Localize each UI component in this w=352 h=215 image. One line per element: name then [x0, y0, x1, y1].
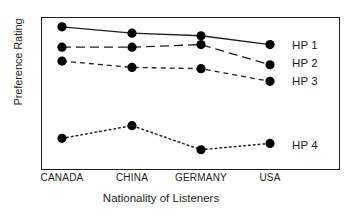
x-tick-germany: GERMANY — [175, 172, 227, 183]
preference-rating-line-chart: Preference Rating 7 6 5 4 3 2 1 CANADA C… — [0, 0, 352, 215]
x-tick-canada: CANADA — [41, 172, 84, 183]
x-tick-china: CHINA — [116, 172, 148, 183]
x-axis-title: Nationality of Listeners — [41, 192, 281, 204]
legend-item-hp3: HP 3 — [292, 75, 318, 87]
legend-item-hp1: HP 1 — [292, 39, 318, 51]
legend-item-hp4: HP 4 — [292, 139, 318, 151]
x-tick-usa: USA — [259, 172, 280, 183]
legend-item-hp2: HP 2 — [292, 57, 318, 69]
y-axis-title: Preference Rating — [12, 0, 24, 132]
